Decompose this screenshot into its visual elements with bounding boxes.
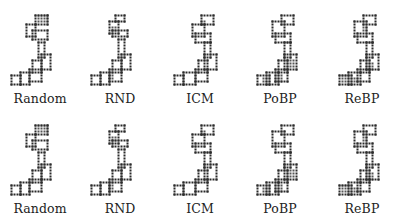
panel-label: PoBP [240, 201, 320, 216]
figure-panel-rnd: RND [80, 0, 160, 110]
figure-panel-icm: ICM [160, 110, 240, 220]
panel-label: PoBP [240, 91, 320, 106]
panel-label: RND [80, 201, 160, 216]
maze-map-image [332, 124, 392, 196]
maze-map-image [170, 14, 230, 86]
figure-panel-random: Random [0, 110, 80, 220]
figure-panel-icm: ICM [160, 0, 240, 110]
panel-label: ICM [160, 91, 240, 106]
figure-panel-pobp: PoBP [240, 110, 320, 220]
panel-label: RND [80, 91, 160, 106]
maze-map-image [250, 124, 310, 196]
maze-map-image [10, 124, 70, 196]
panel-label: Random [0, 91, 80, 106]
maze-map-image [332, 14, 392, 86]
figure-panel-rnd: RND [80, 110, 160, 220]
figure-panel-rebp: ReBP [322, 0, 402, 110]
maze-map-image [170, 124, 230, 196]
figure-panel-rebp: ReBP [322, 110, 402, 220]
panel-label: ReBP [322, 91, 402, 106]
maze-map-image [90, 14, 150, 86]
figure-panel-pobp: PoBP [240, 0, 320, 110]
figure-panel-random: Random [0, 0, 80, 110]
panel-label: ReBP [322, 201, 402, 216]
maze-map-image [10, 14, 70, 86]
maze-map-image [90, 124, 150, 196]
panel-label: Random [0, 201, 80, 216]
maze-map-image [250, 14, 310, 86]
panel-label: ICM [160, 201, 240, 216]
